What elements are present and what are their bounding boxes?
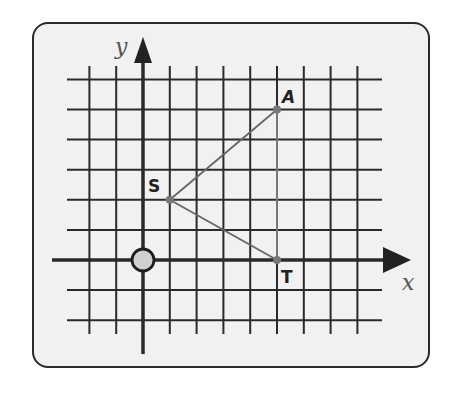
y-axis-label: y (114, 34, 128, 59)
point-label-s: S (148, 176, 160, 196)
point-t (273, 256, 281, 264)
origin-marker (132, 249, 154, 271)
point-s (166, 196, 174, 204)
y-axis-arrow-icon (134, 37, 152, 63)
point-label-t: T (281, 267, 293, 287)
grid-lines (67, 66, 382, 334)
point-label-a: A (280, 87, 295, 107)
axes: x y (52, 34, 415, 354)
coordinate-grid: x y S A T (0, 0, 458, 396)
point-a (273, 106, 281, 114)
x-axis-label: x (402, 270, 415, 295)
